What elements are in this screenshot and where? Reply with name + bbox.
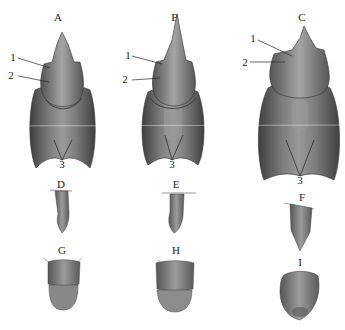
callout-2-a: 2	[8, 69, 14, 81]
anatomical-figure: A 1 2 3 B 1 2 3 C 1	[0, 0, 345, 330]
panel-f: F	[284, 191, 314, 251]
panel-c: C 1 2 3	[242, 11, 339, 186]
callout-3-b: 3	[169, 158, 175, 170]
panel-i: I	[280, 256, 319, 320]
specimen-h-lower	[157, 290, 192, 312]
panel-g: G	[43, 244, 82, 310]
specimen-f	[290, 204, 312, 251]
panel-h: H	[156, 244, 194, 312]
callout-2-c: 2	[242, 56, 248, 68]
panel-d: D	[50, 178, 72, 233]
callout-1-b: 1	[125, 49, 131, 61]
panel-label-g: G	[58, 244, 66, 256]
panel-e: E	[162, 178, 196, 233]
panel-b: B 1 2 3	[122, 11, 204, 170]
panel-label-i: I	[298, 256, 302, 268]
callout-2-b: 2	[122, 73, 128, 85]
specimen-beak-b	[153, 14, 196, 106]
specimen-h-upper	[156, 261, 194, 291]
panel-label-e: E	[173, 178, 180, 190]
panel-label-d: D	[57, 178, 65, 190]
specimen-d	[55, 191, 69, 233]
callout-3-a: 3	[59, 158, 65, 170]
callout-3-c: 3	[297, 174, 303, 186]
specimen-e	[169, 194, 184, 233]
specimen-g-lower	[49, 285, 78, 310]
callout-1-a: 1	[10, 51, 16, 63]
panel-label-f: F	[299, 191, 305, 203]
specimen-g-upper	[48, 260, 80, 286]
panel-a: A 1 2 3	[8, 11, 95, 170]
panel-label-a: A	[54, 11, 62, 23]
panel-label-h: H	[172, 244, 180, 256]
panel-label-c: C	[298, 11, 305, 23]
specimen-beak-a	[41, 32, 84, 107]
callout-1-c: 1	[250, 32, 256, 44]
